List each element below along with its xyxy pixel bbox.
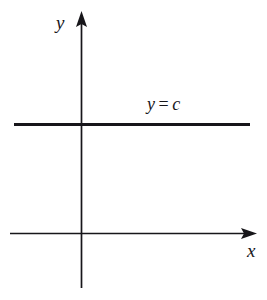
- y-axis-label: y: [56, 13, 64, 32]
- graph-canvas: [0, 0, 267, 300]
- equation-operator: =: [156, 94, 173, 114]
- constant-function-graph: y x y=c: [0, 0, 267, 300]
- equation-lhs: y: [147, 94, 156, 114]
- x-axis-label: x: [247, 241, 255, 260]
- curve-equation-label: y=c: [147, 95, 181, 113]
- equation-rhs: c: [172, 94, 181, 114]
